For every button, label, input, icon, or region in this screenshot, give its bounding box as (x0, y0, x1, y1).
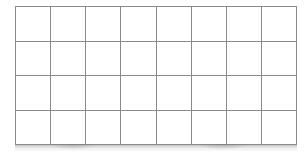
grid-cell[interactable] (191, 41, 226, 76)
grid-cell[interactable] (261, 110, 296, 145)
grid-cell[interactable] (86, 7, 121, 42)
grid-cell[interactable] (16, 41, 51, 76)
grid-cell[interactable] (51, 7, 86, 42)
grid-cell[interactable] (156, 110, 191, 145)
grid-cell[interactable] (226, 76, 261, 111)
grid-cell[interactable] (156, 41, 191, 76)
grid-cell[interactable] (191, 76, 226, 111)
grid-cell[interactable] (86, 41, 121, 76)
bottom-edge-shadow (15, 145, 297, 152)
grid-cell[interactable] (261, 76, 296, 111)
grid-cell[interactable] (261, 41, 296, 76)
grid-cell[interactable] (226, 41, 261, 76)
grid-cell[interactable] (156, 76, 191, 111)
grid-cell[interactable] (191, 110, 226, 145)
grid-cell[interactable] (226, 7, 261, 42)
grid-cell[interactable] (16, 110, 51, 145)
grid-cell[interactable] (121, 41, 156, 76)
grid-cell[interactable] (16, 7, 51, 42)
grid-cell[interactable] (51, 76, 86, 111)
grid-body (16, 7, 297, 145)
grid-frame (15, 6, 297, 145)
grid-cell[interactable] (156, 7, 191, 42)
table-row[interactable] (16, 7, 297, 42)
grid-cell[interactable] (86, 110, 121, 145)
grid-cell[interactable] (121, 110, 156, 145)
grid-cell[interactable] (86, 76, 121, 111)
grid-cell[interactable] (51, 110, 86, 145)
table-row[interactable] (16, 76, 297, 111)
grid-cell[interactable] (191, 7, 226, 42)
grid-cell[interactable] (121, 7, 156, 42)
screenshot-canvas (0, 0, 308, 154)
grid-cell[interactable] (226, 110, 261, 145)
grid-cell[interactable] (121, 76, 156, 111)
grid-cell[interactable] (51, 41, 86, 76)
table-row[interactable] (16, 41, 297, 76)
table-row[interactable] (16, 110, 297, 145)
grid-cell[interactable] (16, 76, 51, 111)
grid-cell[interactable] (261, 7, 296, 42)
empty-grid-table[interactable] (15, 6, 297, 145)
